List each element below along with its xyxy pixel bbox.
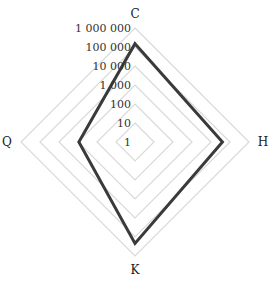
radial-tick-labels: 1101001 00010 000100 0001 000 000 <box>75 22 131 149</box>
tick-label: 100 000 <box>86 41 132 54</box>
grid-ring <box>59 66 211 218</box>
tick-label: 1 <box>124 136 131 149</box>
tick-label: 1 000 <box>100 79 132 92</box>
radar-chart: 1101001 00010 000100 0001 000 000 CHKQ <box>0 0 270 284</box>
grid-ring <box>21 28 249 256</box>
grid-ring <box>78 85 192 199</box>
grid-ring <box>40 47 230 237</box>
axis-label-q: Q <box>2 135 12 149</box>
tick-label: 10 000 <box>93 60 132 73</box>
axis-label-h: H <box>258 135 268 149</box>
grid-ring <box>97 104 173 180</box>
radar-series <box>79 44 223 244</box>
tick-label: 100 <box>110 98 131 111</box>
tick-label: 10 <box>117 117 131 130</box>
axis-label-c: C <box>130 7 139 21</box>
radar-grid <box>21 28 249 256</box>
tick-label: 1 000 000 <box>75 22 131 35</box>
axis-label-k: K <box>131 263 141 277</box>
series-line <box>79 44 223 244</box>
